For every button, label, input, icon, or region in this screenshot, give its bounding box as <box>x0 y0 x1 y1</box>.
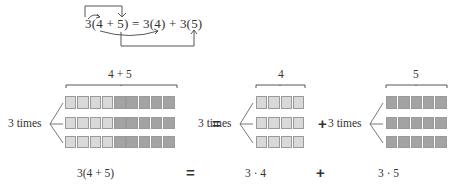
grid-row <box>256 136 305 149</box>
dark-cell <box>411 136 422 149</box>
light-cell <box>256 96 267 109</box>
dark-cell <box>114 117 125 130</box>
light-cell <box>293 136 304 149</box>
plus-sign: + <box>318 115 327 132</box>
light-cell <box>268 96 279 109</box>
light-cell <box>65 117 76 130</box>
light-cell <box>293 96 304 109</box>
brace-label-4-plus-5: 4 + 5 <box>108 68 132 80</box>
light-cell <box>256 117 267 130</box>
grid-row <box>256 96 305 109</box>
light-cell <box>90 96 101 109</box>
dark-cell <box>114 96 125 109</box>
brace-label-4: 4 <box>278 68 284 80</box>
light-cell <box>77 96 88 109</box>
light-cell <box>268 136 279 149</box>
dark-cell <box>151 117 162 130</box>
distribution-arrows <box>85 6 197 46</box>
dark-cell <box>435 96 446 109</box>
dark-cell <box>139 117 150 130</box>
light-cell <box>65 136 76 149</box>
dark-cell <box>423 136 434 149</box>
light-cell <box>256 136 267 149</box>
light-cell <box>281 136 292 149</box>
dark-cell <box>386 117 397 130</box>
grid-row <box>65 136 176 149</box>
dark-cell <box>398 96 409 109</box>
dark-cell <box>411 117 422 130</box>
dark-cell <box>435 117 446 130</box>
dark-cell <box>139 136 150 149</box>
row-label-3-times: 3 times <box>8 117 42 129</box>
dark-cell <box>398 136 409 149</box>
light-cell <box>77 117 88 130</box>
bottom-equals: = <box>186 164 195 181</box>
bottom-expression-right: 3 · 5 <box>378 167 399 179</box>
light-cell <box>268 117 279 130</box>
grid-row <box>386 96 447 109</box>
bottom-expression-middle: 3 · 4 <box>245 167 266 179</box>
grid-row <box>256 117 305 130</box>
light-cell <box>102 136 113 149</box>
bottom-plus: + <box>316 164 325 181</box>
dark-cell <box>435 136 446 149</box>
dark-cell <box>126 96 137 109</box>
bottom-expression-left: 3(4 + 5) <box>77 167 114 179</box>
row-label-3-times: 3 times <box>198 117 232 129</box>
dark-cell <box>163 117 174 130</box>
light-cell <box>293 117 304 130</box>
grid-row <box>386 117 447 130</box>
dark-cell <box>386 96 397 109</box>
light-cell <box>281 96 292 109</box>
row-label-3-times: 3 times <box>328 117 362 129</box>
dark-cell <box>163 136 174 149</box>
grid-row <box>386 136 447 149</box>
dark-cell <box>126 136 137 149</box>
dark-cell <box>398 117 409 130</box>
dark-cell <box>114 136 125 149</box>
light-cell <box>90 136 101 149</box>
light-cell <box>65 96 76 109</box>
diagram-lines <box>0 0 461 190</box>
dark-cell <box>139 96 150 109</box>
dark-cell <box>126 117 137 130</box>
braces <box>66 85 447 88</box>
dark-cell <box>411 96 422 109</box>
light-cell <box>102 96 113 109</box>
grid-row <box>65 117 176 130</box>
light-cell <box>90 117 101 130</box>
dark-cell <box>423 117 434 130</box>
light-cell <box>77 136 88 149</box>
grid-row <box>65 96 176 109</box>
dark-cell <box>151 136 162 149</box>
dark-cell <box>151 96 162 109</box>
light-cell <box>281 117 292 130</box>
dark-cell <box>386 136 397 149</box>
dark-cell <box>163 96 174 109</box>
brace-label-5: 5 <box>413 68 419 80</box>
light-cell <box>102 117 113 130</box>
dark-cell <box>423 96 434 109</box>
